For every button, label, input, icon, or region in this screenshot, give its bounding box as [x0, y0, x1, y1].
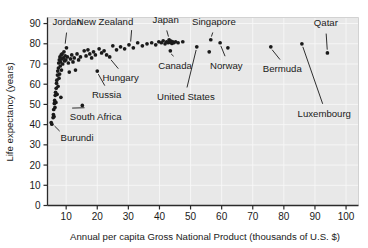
- x-tick-label: 40: [154, 211, 166, 222]
- data-point: [50, 122, 54, 126]
- data-point: [59, 96, 63, 100]
- scatter-plot-figure: 1020304050607080901000102030405060708090…: [0, 0, 368, 248]
- data-point: [97, 47, 101, 51]
- data-point: [209, 38, 213, 42]
- life-expectancy-vs-gnp-chart: 1020304050607080901000102030405060708090…: [0, 0, 368, 248]
- data-point: [82, 49, 86, 53]
- y-tick-label: 70: [29, 59, 41, 70]
- data-point: [207, 50, 211, 54]
- data-point: [90, 56, 94, 60]
- data-point: [136, 41, 140, 45]
- data-point: [123, 47, 127, 51]
- x-tick-label: 20: [92, 211, 104, 222]
- annotation-label: Qatar: [314, 17, 339, 28]
- y-tick-label: 0: [35, 200, 41, 211]
- annotation-label: Russia: [92, 89, 122, 100]
- annotation-label: Burundi: [61, 132, 94, 143]
- data-point: [75, 52, 79, 56]
- y-tick-label: 10: [29, 180, 41, 191]
- data-point: [67, 70, 71, 74]
- annotation-label: Singapore: [192, 16, 236, 27]
- data-point: [102, 49, 106, 53]
- data-point: [150, 41, 154, 45]
- data-point: [226, 46, 230, 50]
- annotation-label: Japan: [153, 14, 179, 25]
- data-point: [56, 84, 60, 88]
- data-point: [60, 68, 64, 72]
- data-point: [69, 57, 73, 61]
- data-point: [66, 61, 70, 65]
- data-point: [168, 49, 172, 53]
- data-point: [115, 48, 119, 52]
- annotation-label: Canada: [158, 60, 192, 71]
- data-point: [80, 104, 84, 108]
- x-tick-label: 30: [123, 211, 135, 222]
- data-point: [62, 50, 66, 54]
- y-axis-title: Life expectancy (years): [4, 62, 15, 161]
- x-tick-label: 100: [338, 211, 355, 222]
- annotation-label: Norway: [210, 60, 243, 71]
- data-point: [95, 69, 99, 73]
- data-point: [105, 53, 109, 57]
- y-tick-label: 30: [29, 139, 41, 150]
- data-point: [176, 41, 180, 45]
- data-point: [84, 54, 88, 58]
- y-tick-label: 40: [29, 119, 41, 130]
- y-tick-label: 20: [29, 160, 41, 171]
- data-point: [55, 92, 59, 96]
- data-point: [111, 44, 115, 48]
- data-point: [218, 41, 222, 45]
- x-tick-label: 60: [216, 211, 228, 222]
- y-tick-label: 60: [29, 79, 41, 90]
- annotation-label: United States: [157, 91, 215, 102]
- y-tick-label: 80: [29, 38, 41, 49]
- data-point: [66, 55, 70, 59]
- x-tick-label: 80: [278, 211, 290, 222]
- data-point: [53, 106, 57, 110]
- data-point: [269, 45, 273, 49]
- annotation-label: Luxembourg: [298, 108, 351, 119]
- annotation-label: Hungary: [102, 72, 138, 83]
- data-point: [52, 115, 56, 119]
- x-tick-label: 70: [247, 211, 259, 222]
- annotation-label: South Africa: [70, 111, 122, 122]
- data-point: [181, 40, 185, 44]
- x-axis-title: Annual per capita Gross National Product…: [70, 231, 340, 242]
- x-tick-label: 50: [185, 211, 197, 222]
- data-point: [94, 53, 98, 57]
- data-point: [141, 44, 145, 48]
- data-point: [79, 55, 83, 59]
- annotation-label: Bermuda: [263, 63, 303, 74]
- data-point: [65, 46, 69, 50]
- data-point: [54, 101, 58, 105]
- data-point: [131, 46, 135, 50]
- data-point: [154, 43, 158, 47]
- x-tick-label: 90: [309, 211, 321, 222]
- data-point: [326, 51, 330, 55]
- annotation-label: New Zealand: [77, 16, 134, 27]
- y-tick-label: 50: [29, 99, 41, 110]
- data-point: [88, 52, 92, 56]
- data-point: [300, 42, 304, 46]
- data-point: [195, 45, 199, 49]
- data-point: [145, 42, 149, 46]
- data-point: [72, 56, 76, 60]
- y-tick-label: 90: [29, 18, 41, 29]
- data-point: [119, 45, 123, 49]
- data-point: [71, 60, 75, 64]
- data-point: [57, 76, 61, 80]
- x-tick-label: 10: [61, 211, 73, 222]
- data-point: [108, 55, 112, 59]
- data-point: [58, 72, 62, 76]
- data-point: [70, 53, 74, 57]
- data-point: [86, 48, 90, 52]
- data-point: [127, 43, 131, 47]
- data-point: [74, 68, 78, 72]
